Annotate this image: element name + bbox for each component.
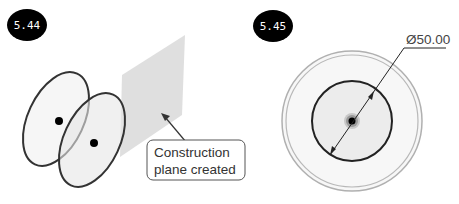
dimension-label: Ø50.00 (406, 32, 450, 47)
center-point-2 (90, 139, 98, 147)
figure-5-44: 5.44 Construction plane created (7, 9, 245, 197)
figure-5-45: 5.45 Ø50.00 (253, 10, 450, 191)
badge-label: 5.44 (14, 19, 41, 32)
callout-line-2: plane created (154, 162, 236, 177)
callout-box: Construction plane created (147, 140, 245, 180)
figure-badge-5-44: 5.44 (7, 9, 47, 41)
callout-line-1: Construction (154, 145, 230, 160)
center-point-1 (55, 117, 63, 125)
construction-plane (120, 35, 185, 157)
badge-label: 5.45 (260, 20, 287, 33)
figure-badge-5-45: 5.45 (253, 10, 293, 42)
